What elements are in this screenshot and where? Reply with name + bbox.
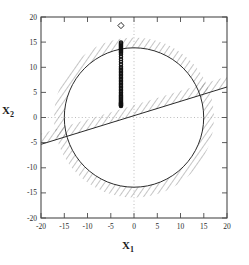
y-tick-label: 5 [33,88,37,97]
y-tick-label: -15 [27,188,37,197]
y-tick-label: 10 [30,63,38,72]
x-tick-label: 5 [155,222,159,231]
x-axis-label-name: X [122,239,130,251]
y-tick-label: -10 [27,163,37,172]
y-axis-label-subscript: 2 [10,110,14,119]
sample-points-series [119,41,122,108]
y-tick-label: -20 [27,214,37,223]
x-tick-label: 20 [223,222,231,231]
x-tick-label: 10 [177,222,185,231]
x-axis-label-subscript: 1 [130,245,134,254]
y-tick-label: -5 [31,138,37,147]
x-tick-label: -15 [59,222,69,231]
x-tick-label: -20 [36,222,46,231]
x-tick-label: 15 [200,222,208,231]
x-axis-tick-labels: -20-15-10-505101520 [36,222,231,231]
x-tick-label: -10 [83,222,93,231]
y-tick-label: 20 [30,13,38,22]
y-axis-tick-labels: 20151050-5-10-15-20 [27,13,37,223]
x-tick-label: -5 [108,222,114,231]
y-axis-label: X2 [2,105,28,131]
y-tick-label: 15 [30,38,38,47]
y-axis-label-name: X [2,104,10,116]
scatter-plot-figure: -20-15-10-505101520 20151050-5-10-15-20 … [0,0,249,265]
y-tick-label: 0 [33,113,37,122]
x-axis-label: X1 [108,240,148,260]
plot-canvas: -20-15-10-505101520 20151050-5-10-15-20 [0,0,249,265]
x-tick-label: 0 [132,222,136,231]
